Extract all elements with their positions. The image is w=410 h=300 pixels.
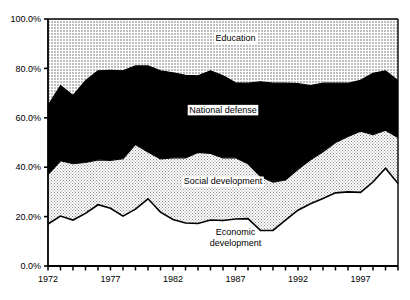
x-axis-tick-label: 1997 <box>350 274 370 284</box>
annotation-education: Education <box>214 33 257 44</box>
annotation-social-development-text: Social development <box>184 176 263 186</box>
x-axis-tick-labels: 197219771982198719921997 <box>38 274 371 284</box>
stacked-area-chart: 0.0%20.0%40.0%60.0%80.0%100.0% 197219771… <box>0 0 410 300</box>
annotation-national-defense: National defense <box>188 105 259 116</box>
annotation-national-defense-text: National defense <box>189 105 257 115</box>
x-axis-tick-label: 1992 <box>288 274 308 284</box>
y-axis-tick-labels: 0.0%20.0%40.0%60.0%80.0%100.0% <box>10 14 41 271</box>
x-axis-tick-label: 1977 <box>100 274 120 284</box>
y-axis-tick-label: 0.0% <box>20 261 41 271</box>
x-axis-tick-label: 1982 <box>163 274 183 284</box>
y-axis-tick-label: 20.0% <box>15 212 41 222</box>
annotation-education-text: Education <box>215 33 255 43</box>
x-axis-tick-label: 1972 <box>38 274 58 284</box>
annotation-economic-development-text-line1: Economic <box>216 227 256 237</box>
annotation-economic-development: Economic development <box>210 227 262 248</box>
x-axis-tick-label: 1987 <box>225 274 245 284</box>
annotation-economic-development-text-line2: development <box>210 238 262 248</box>
y-axis-tick-label: 40.0% <box>15 162 41 172</box>
chart-container: 0.0%20.0%40.0%60.0%80.0%100.0% 197219771… <box>0 0 410 300</box>
y-axis-tick-label: 60.0% <box>15 113 41 123</box>
y-axis-tick-label: 100.0% <box>10 14 41 24</box>
annotation-social-development: Social development <box>182 176 264 187</box>
y-axis-tick-label: 80.0% <box>15 64 41 74</box>
